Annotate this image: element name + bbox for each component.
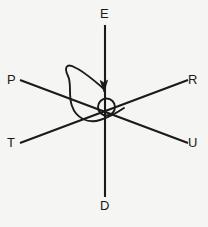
axis-label-right-upper: R	[188, 73, 197, 86]
rotation-loop-arrow	[66, 66, 124, 122]
axis-label-up: E	[100, 7, 109, 20]
diagram-canvas: E D P R T U	[0, 0, 208, 227]
axis-diagram-svg	[0, 0, 208, 227]
axis-label-right-lower: U	[188, 136, 197, 149]
axis-label-down: D	[100, 199, 109, 212]
axis-label-left-upper: P	[7, 73, 16, 86]
axis-label-left-lower: T	[7, 136, 15, 149]
